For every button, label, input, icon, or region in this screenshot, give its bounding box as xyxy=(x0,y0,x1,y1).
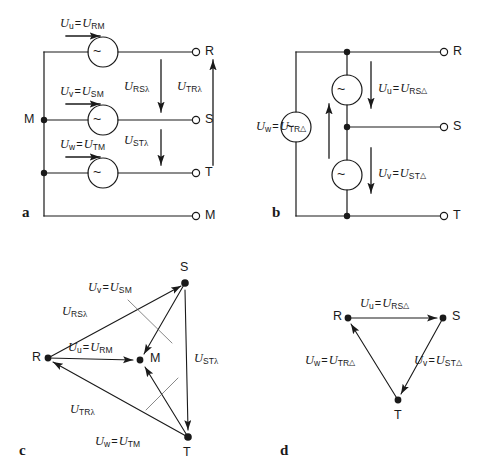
terminal-S xyxy=(440,123,447,130)
phasor-TR xyxy=(351,324,398,400)
equals-sign: = xyxy=(320,354,328,366)
terminal-M-right xyxy=(192,212,199,219)
symbol-U: U xyxy=(60,137,69,151)
panel-a-circuit xyxy=(41,36,213,220)
label-phasor-rs-c: URSλ xyxy=(62,305,87,319)
phasor-ST xyxy=(185,290,188,430)
delta-subscript: △ xyxy=(349,358,355,367)
terminal-T xyxy=(192,169,199,176)
delta-subscript: △ xyxy=(403,301,409,310)
panel-id-c: c xyxy=(19,443,26,458)
symbol-U: U xyxy=(110,280,119,294)
panel-id-d: d xyxy=(280,443,288,458)
vertex-S xyxy=(181,279,189,287)
equals-sign: = xyxy=(101,281,109,293)
subscript-ST: ST xyxy=(445,358,456,368)
label-phase-v-b: Uv=UST△ xyxy=(378,167,426,180)
symbol-U: U xyxy=(84,137,93,151)
symbol-U: U xyxy=(90,340,99,354)
phasor-TM xyxy=(145,367,188,437)
subscript-TM: TM xyxy=(128,439,140,449)
symbol-U: U xyxy=(378,166,387,180)
terminal-R xyxy=(440,48,447,55)
terminal-T xyxy=(440,212,447,219)
vertex-R xyxy=(45,355,52,362)
vertex-label-S-d: S xyxy=(452,310,460,323)
label-phase-v-a: Uv=USM xyxy=(60,85,104,98)
subscript-ST: ST xyxy=(203,356,214,366)
symbol-U: U xyxy=(382,296,391,310)
source-symbol-v-a: ~ xyxy=(93,112,101,126)
vertex-S xyxy=(440,315,447,322)
subscript-ST: ST xyxy=(133,138,144,148)
subscript-ST: ST xyxy=(409,171,420,181)
phasor-TR xyxy=(53,362,186,436)
symbol-U: U xyxy=(436,353,445,367)
source-symbol-u-b: ~ xyxy=(337,82,345,96)
vertex-label-R-d: R xyxy=(333,310,342,323)
vertex-label-T-d: T xyxy=(394,409,402,422)
label-phasor-v-c: Uv=USM xyxy=(88,281,132,294)
label-phase-w-b: Uw=UTR△ xyxy=(256,120,306,133)
vertex-T xyxy=(184,433,192,441)
symbol-U: U xyxy=(305,353,314,367)
source-symbol-u-a: ~ xyxy=(93,44,101,58)
symbol-U: U xyxy=(414,353,423,367)
lambda-subscript: λ xyxy=(198,84,202,94)
symbol-U: U xyxy=(82,84,91,98)
symbol-U: U xyxy=(124,79,133,93)
phasor-RM xyxy=(48,358,133,360)
terminal-label-R-b: R xyxy=(453,45,462,58)
terminal-label-M-left-a: M xyxy=(24,113,34,126)
terminal-label-S-a: S xyxy=(205,113,213,126)
subscript-RS: RS xyxy=(409,86,421,96)
vertex-label-M-c: M xyxy=(150,352,160,365)
equals-sign: = xyxy=(427,354,435,366)
delta-subscript: △ xyxy=(420,171,426,180)
panel-id-b: b xyxy=(272,205,280,220)
lambda-subscript: λ xyxy=(144,138,148,148)
symbol-U: U xyxy=(400,166,409,180)
symbol-U: U xyxy=(400,81,409,95)
lambda-subscript: λ xyxy=(214,356,218,366)
label-phasor-tr-c: UTRλ xyxy=(70,403,95,417)
symbol-U: U xyxy=(82,16,91,30)
symbol-U: U xyxy=(124,133,133,147)
source-symbol-v-b: ~ xyxy=(337,167,345,181)
label-phasor-u-d: Uu=URS△ xyxy=(360,297,409,310)
symbol-U: U xyxy=(378,81,387,95)
label-phasor-w-d: Uw=UTR△ xyxy=(305,354,355,367)
label-phasor-u-c: Uu=URM xyxy=(68,341,113,354)
label-phase-u-b: Uu=URS△ xyxy=(378,82,427,95)
terminal-label-T-a: T xyxy=(205,166,213,179)
symbol-U: U xyxy=(360,296,369,310)
vertex-T xyxy=(395,397,402,404)
symbol-U: U xyxy=(88,280,97,294)
source-symbol-w-b: ~ xyxy=(286,119,294,133)
delta-subscript: △ xyxy=(421,86,427,95)
label-phase-w-a: Uw=UTM xyxy=(60,138,105,151)
subscript-RS: RS xyxy=(71,309,83,319)
symbol-U: U xyxy=(177,79,186,93)
subscript-SM: SM xyxy=(91,89,104,99)
symbol-U: U xyxy=(70,402,79,416)
lambda-subscript: λ xyxy=(145,84,149,94)
subscript-RM: RM xyxy=(91,21,104,31)
lambda-subscript: λ xyxy=(83,309,87,319)
terminal-label-R-a: R xyxy=(205,45,214,58)
lambda-subscript: λ xyxy=(91,407,95,417)
three-phase-figure: Uu=URM Uv=USM Uw=UTM URSλ USTλ UTRλ R S … xyxy=(0,0,500,475)
label-line-rs-a: URSλ xyxy=(124,80,149,94)
equals-sign: = xyxy=(271,120,279,132)
equals-sign: = xyxy=(391,167,399,179)
symbol-U: U xyxy=(68,340,77,354)
symbol-U: U xyxy=(256,119,265,133)
phasor-SM xyxy=(144,283,185,354)
vertex-label-T-c: T xyxy=(183,446,191,459)
equals-sign: = xyxy=(110,435,118,447)
vertex-label-R-c: R xyxy=(32,351,41,364)
terminal-label-S-b: S xyxy=(453,120,461,133)
label-phasor-st-c: USTλ xyxy=(194,352,218,366)
vertex-label-S-c: S xyxy=(180,261,188,274)
subscript-RS: RS xyxy=(133,84,145,94)
